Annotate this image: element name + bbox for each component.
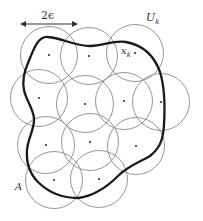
ball-center-dot bbox=[84, 103, 86, 105]
ball-center-dot bbox=[135, 145, 137, 147]
set-label: A bbox=[15, 182, 22, 192]
ball-center-dot bbox=[48, 54, 50, 56]
ball-center-dot bbox=[134, 52, 136, 54]
diameter-label: 2ϵ bbox=[41, 10, 54, 21]
ball-center-dot bbox=[89, 141, 91, 143]
covering-diagram bbox=[0, 0, 203, 221]
ball-label: Uk bbox=[146, 12, 160, 26]
ball-center-dot bbox=[123, 100, 125, 102]
center-point-label: xk bbox=[121, 46, 131, 59]
ball-center-dot bbox=[53, 179, 55, 181]
ball-center-dot bbox=[88, 55, 90, 57]
ball-center-dot bbox=[160, 101, 162, 103]
ball-center-dot bbox=[38, 97, 40, 99]
ball-center-dot bbox=[45, 144, 47, 146]
ball-center-dot bbox=[98, 178, 100, 180]
